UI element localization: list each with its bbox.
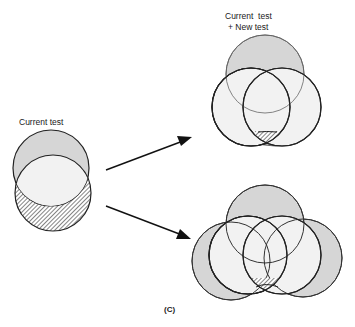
arrowhead-up-icon [177,136,192,146]
four-circle-diagram [192,185,342,300]
combined-test-label-line2: + New test [228,22,268,33]
venn-diagram [0,0,355,327]
current-test-diagram [13,130,91,231]
arrow-up [106,141,183,170]
combined-test-label-line1: Current test [225,11,272,22]
panel-label: (C) [164,304,175,315]
current-plus-new-test-diagram [212,35,321,151]
current-test-label: Current test [19,117,63,128]
arrow-down [106,206,182,235]
arrows [106,136,192,239]
arrowhead-down-icon [176,229,191,239]
